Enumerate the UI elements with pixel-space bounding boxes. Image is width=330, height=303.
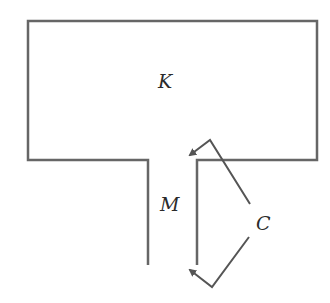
arrow-upper-corner [190, 140, 250, 204]
chamber-outline [28, 21, 317, 265]
label-m: M [160, 193, 179, 215]
label-k: K [158, 70, 172, 92]
arrow-lower-corner [190, 237, 249, 287]
label-c: C [256, 212, 271, 234]
diagram-canvas [0, 0, 330, 303]
